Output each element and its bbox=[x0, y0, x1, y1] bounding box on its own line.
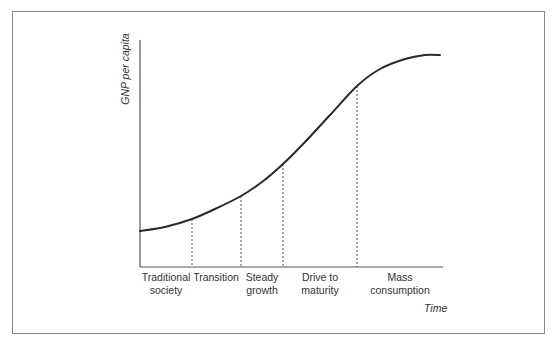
stage-label-line: consumption bbox=[370, 284, 430, 297]
stage-label-line: Steady bbox=[246, 271, 279, 284]
stage-label-steady-growth: Steady growth bbox=[246, 271, 279, 296]
stage-label-line: Drive to bbox=[301, 271, 338, 284]
growth-stages-chart bbox=[0, 0, 558, 344]
gnp-curve bbox=[140, 55, 440, 231]
stage-label-line: Mass bbox=[370, 271, 430, 284]
stage-label-line: society bbox=[142, 284, 191, 297]
y-axis-label: GNP per capita bbox=[119, 33, 131, 104]
stage-label-mass-consumption: Mass consumption bbox=[370, 271, 430, 296]
stage-label-traditional-society: Traditional society bbox=[142, 271, 191, 296]
stage-label-line: maturity bbox=[301, 284, 338, 297]
x-axis-label: Time bbox=[424, 302, 447, 314]
stage-label-transition: Transition bbox=[193, 271, 239, 284]
stage-label-line: Transition bbox=[193, 271, 239, 284]
stage-label-line: growth bbox=[246, 284, 279, 297]
stage-label-drive-to-maturity: Drive to maturity bbox=[301, 271, 338, 296]
stage-label-line: Traditional bbox=[142, 271, 191, 284]
